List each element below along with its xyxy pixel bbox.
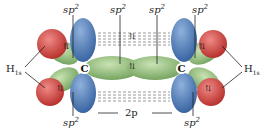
p-orbital xyxy=(171,18,197,62)
carbon-right: C xyxy=(176,63,187,74)
spin-ch: ⇅ xyxy=(199,43,206,51)
label-sp2: sp2 xyxy=(110,4,126,15)
label-h1s-right: H1s xyxy=(244,64,260,76)
spin-sigma: ⇅ xyxy=(129,63,136,71)
p-orbital xyxy=(70,18,96,62)
spin-pi: ⇅ xyxy=(129,33,136,41)
spin-ch: ⇅ xyxy=(205,85,212,93)
spin-ch: ⇅ xyxy=(63,43,70,51)
label-sp2: sp2 xyxy=(149,4,165,15)
label-sp2: sp2 xyxy=(63,4,79,15)
label-h1s-left: H1s xyxy=(6,64,22,76)
carbon-left: C xyxy=(79,63,90,74)
label-sp2: sp2 xyxy=(192,4,208,15)
pi-bond-bottom-dashes xyxy=(98,92,170,101)
spin-ch: ⇅ xyxy=(57,85,64,93)
label-sp2: sp2 xyxy=(184,117,200,128)
p-orbital xyxy=(70,73,96,113)
label-sp2: sp2 xyxy=(63,117,79,128)
label-2p: 2p xyxy=(125,108,138,118)
